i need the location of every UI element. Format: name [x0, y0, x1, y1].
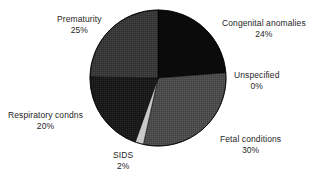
slice-label-percent: 20% — [8, 121, 83, 132]
slice-label-name: Unspecified — [234, 70, 280, 80]
pie-slices — [90, 10, 226, 146]
slice-label-respiratory-condns: Respiratory condns 20% — [8, 110, 83, 131]
slice-label-percent: 0% — [234, 81, 280, 92]
slice-label-unspecified: Unspecified 0% — [234, 70, 280, 91]
pie-chart-figure: Congenital anomalies 24% Unspecified 0% … — [0, 0, 313, 181]
slice-label-prematurity: Prematurity 25% — [57, 14, 102, 35]
slice-label-sids: SIDS 2% — [113, 150, 133, 171]
slice-label-percent: 30% — [220, 145, 281, 156]
slice-label-percent: 24% — [222, 29, 306, 40]
slice-label-name: Respiratory condns — [8, 110, 83, 120]
slice-label-congenital-anomalies: Congenital anomalies 24% — [222, 18, 306, 39]
slice-label-name: Prematurity — [57, 14, 102, 24]
slice-label-name: Congenital anomalies — [222, 18, 306, 28]
slice-label-percent: 25% — [57, 25, 102, 36]
slice-label-percent: 2% — [113, 161, 133, 172]
slice-label-name: SIDS — [113, 150, 133, 160]
slice-label-fetal-conditions: Fetal conditions 30% — [220, 134, 281, 155]
slice-label-name: Fetal conditions — [220, 134, 281, 144]
pie-slice-congenital-anomalies — [158, 10, 226, 78]
